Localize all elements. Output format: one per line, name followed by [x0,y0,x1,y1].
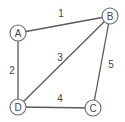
edge-weight-label: 2 [9,65,15,76]
node-a: A [10,25,26,41]
node-d: D [10,99,26,115]
edge-d-c [18,107,93,108]
node-label: D [14,102,21,113]
edge-weight-label: 5 [108,59,114,70]
edge-weight-label: 1 [58,8,64,19]
edge-weight-label: 4 [57,93,63,104]
node-c: C [85,100,101,116]
node-label: B [107,11,114,22]
graph-diagram: 12345 ABCD [0,0,125,122]
node-label: C [89,103,96,114]
edge-weight-label: 3 [57,52,63,63]
edges-group [18,16,110,108]
edge-labels-group: 12345 [9,8,114,104]
node-label: A [15,28,22,39]
node-b: B [102,8,118,24]
